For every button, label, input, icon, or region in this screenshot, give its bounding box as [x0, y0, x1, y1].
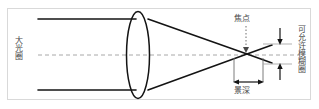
depth-of-field-diagram: 大光圈 焦点 景深 可允许模糊圈	[0, 0, 319, 109]
label-large-aperture: 大光圈	[13, 36, 21, 60]
label-focus-point: 焦点	[234, 15, 250, 23]
optical-diagram-canvas	[0, 0, 319, 109]
label-circle-of-confusion: 可允许模糊圈	[296, 25, 304, 73]
label-depth-of-field: 景深	[234, 87, 250, 95]
